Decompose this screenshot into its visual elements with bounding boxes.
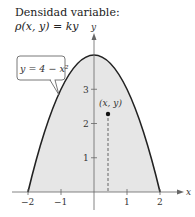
x-axis-label: x <box>186 187 191 197</box>
point-label: (x, y) <box>99 98 122 108</box>
x-tick-1: 1 <box>124 197 130 207</box>
callout-formula: y = 4 − x² <box>19 63 69 74</box>
callout-pointer <box>50 80 59 95</box>
y-tick-3: 3 <box>83 85 89 95</box>
y-axis-label: y <box>90 22 97 32</box>
sample-point <box>106 112 110 116</box>
figure: Densidad variable: ρ(x, y) = ky −2 −1 1 … <box>0 0 195 217</box>
x-axis-arrow-icon <box>177 190 184 195</box>
y-tick-1: 1 <box>83 153 89 163</box>
x-tick-neg2: −2 <box>21 197 34 207</box>
x-tick-2: 2 <box>157 197 163 207</box>
plot: −2 −1 1 2 1 2 3 x y (x, y) y = 4 − x² <box>0 0 195 217</box>
x-tick-neg1: −1 <box>54 197 67 207</box>
y-tick-2: 2 <box>83 119 89 129</box>
y-axis-arrow-icon <box>92 33 97 40</box>
